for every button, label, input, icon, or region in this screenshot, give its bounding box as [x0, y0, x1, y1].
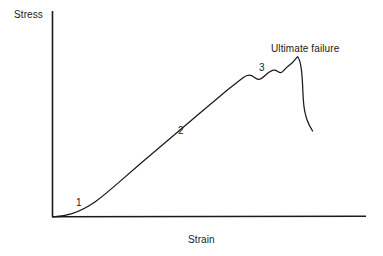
strain-axis: [52, 216, 366, 217]
region-1-label: 1: [76, 197, 82, 208]
region-3-label: 3: [259, 62, 265, 73]
y-axis-label: Stress: [14, 9, 43, 20]
stress-strain-curve: [53, 57, 313, 217]
stress-strain-figure: Stress Strain Ultimate failure 1 2 3: [0, 0, 383, 256]
region-2-label: 2: [178, 125, 184, 136]
x-axis-label: Strain: [188, 234, 215, 245]
plot-area: [0, 0, 383, 256]
ultimate-failure-label: Ultimate failure: [271, 43, 339, 54]
